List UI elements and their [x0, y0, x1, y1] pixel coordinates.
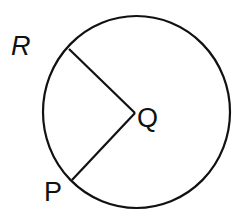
circle-diagram: R Q P [0, 0, 243, 218]
radius-qp [72, 113, 135, 180]
label-p: P [44, 177, 62, 207]
label-r: R [11, 31, 31, 61]
label-q: Q [137, 103, 158, 133]
radius-qr [69, 49, 135, 113]
